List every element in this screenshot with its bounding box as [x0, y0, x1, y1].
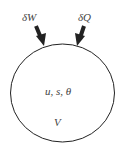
system-diagram: δW δQ u, s, θ V — [0, 0, 125, 150]
work-label: δW — [22, 11, 37, 23]
state-variables-label: u, s, θ — [45, 85, 72, 97]
heat-label: δQ — [78, 11, 91, 23]
heat-arrow-icon — [75, 26, 85, 46]
volume-label: V — [54, 116, 62, 128]
work-arrow-icon — [36, 26, 46, 46]
